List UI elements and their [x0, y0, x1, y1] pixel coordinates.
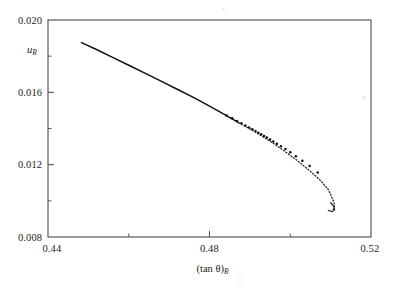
x-axis-title-subscript: R	[224, 267, 229, 276]
ytick-label-0016: 0.016	[18, 87, 42, 98]
scan-speck	[222, 8, 225, 10]
y-axis-title-subscript: R	[32, 48, 37, 57]
scan-speck	[362, 96, 365, 99]
x-axis-title-base: (tan θ)	[197, 263, 224, 274]
scan-speck	[238, 279, 242, 281]
x-axis-title: (tan θ)R	[197, 263, 229, 276]
xtick-label-052: 0.52	[361, 243, 380, 254]
ytick-label-0020: 0.020	[18, 15, 42, 26]
y-axis-title: uR	[27, 44, 37, 57]
xtick-label-044: 0.44	[43, 243, 62, 254]
figure-container: 0.020 0.016 0.012 0.008 0.44 0.48 0.52 u…	[0, 0, 394, 295]
xtick-label-048: 0.48	[200, 243, 219, 254]
ytick-label-0008: 0.008	[18, 232, 42, 243]
ytick-label-0012: 0.012	[18, 159, 42, 170]
